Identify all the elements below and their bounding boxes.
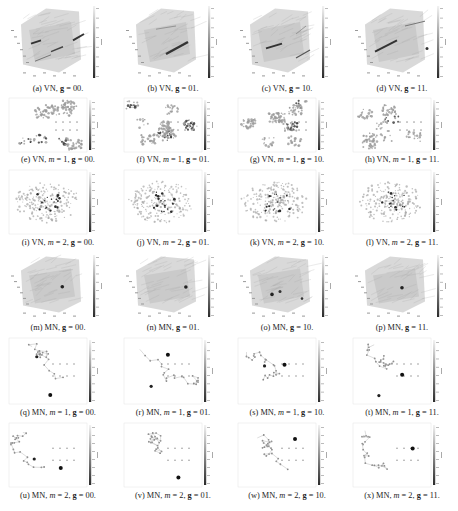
- caption-n: (n) MN, g = 01.: [116, 323, 230, 333]
- caption-label: (b) VN: [147, 84, 171, 93]
- caption-g-value: = 10.: [305, 238, 324, 247]
- caption-g-value: = 11.: [420, 155, 439, 164]
- plot-j: [116, 168, 230, 236]
- caption-v: (v) MN, m = 2, g = 01.: [116, 491, 230, 501]
- scatter-clusters-2d: [238, 98, 316, 152]
- caption-g-value: = 00.: [64, 84, 83, 93]
- caption-label: (r) MN: [136, 408, 160, 417]
- caption-m-value: = 1: [169, 155, 182, 164]
- graph-2d: [9, 423, 87, 487]
- plot-g: [230, 96, 344, 154]
- colorbar: [433, 172, 442, 232]
- caption-label: (s) MN: [250, 408, 274, 417]
- caption-f: (f) VN, m = 1, g = 01.: [116, 155, 230, 165]
- caption-g-value: = 11.: [409, 84, 428, 93]
- graph-2d: [353, 338, 431, 404]
- caption-m-value: = 2: [285, 491, 298, 500]
- caption-label: (h) VN: [365, 155, 389, 164]
- caption-g-value: = 10.: [305, 155, 324, 164]
- caption-g-value: = 01.: [180, 323, 199, 332]
- caption-m-value: = 1: [55, 408, 68, 417]
- caption-g-value: = 01.: [191, 408, 210, 417]
- plot-l: [345, 168, 458, 236]
- caption-g-value: = 10.: [305, 408, 324, 417]
- caption-a: (a) VN, g = 00.: [1, 84, 115, 94]
- caption-g-value: = 11.: [421, 491, 440, 500]
- caption-label: (j) VN: [137, 238, 159, 247]
- scatter-clusters-2d: [353, 98, 431, 152]
- caption-m-value: = 2: [54, 238, 67, 247]
- caption-label: (l) VN: [366, 238, 388, 247]
- caption-s: (s) MN, m = 1, g = 10.: [230, 408, 344, 418]
- caption-b: (b) VN, g = 01.: [116, 84, 230, 94]
- caption-p: (p) MN, g = 11.: [345, 323, 458, 333]
- scatter-cloud-3d: [355, 257, 436, 317]
- caption-g-value: = 00.: [76, 155, 95, 164]
- colorbar: [318, 340, 327, 402]
- caption-e: (e) VN, m = 1, g = 00.: [1, 155, 115, 165]
- caption-label: (t) MN: [365, 408, 388, 417]
- scatter-clusters-2d: [9, 98, 87, 152]
- caption-label: (c) VN: [262, 84, 285, 93]
- caption-m-value: = 1: [399, 155, 412, 164]
- plot-t: [345, 336, 458, 406]
- colorbar: [204, 172, 213, 232]
- scatter-cloud-3d: [126, 8, 208, 76]
- caption-g-value: = 10.: [294, 323, 313, 332]
- caption-i: (i) VN, m = 2, g = 00.: [1, 238, 115, 248]
- graph-2d: [124, 423, 202, 487]
- caption-o: (o) MN, g = 10.: [230, 323, 344, 333]
- colorbar: [204, 100, 213, 150]
- caption-m-value: = 1: [284, 408, 297, 417]
- caption-label: (x) MN: [364, 491, 389, 500]
- plot-e: [1, 96, 115, 154]
- caption-t: (t) MN, m = 1, g = 11.: [345, 408, 458, 418]
- colorbar: [89, 340, 98, 402]
- scatter-blob-2d: [238, 170, 316, 234]
- caption-h: (h) VN, m = 1, g = 11.: [345, 155, 458, 165]
- scatter-cloud-3d: [126, 257, 207, 317]
- graph-2d: [238, 338, 316, 404]
- caption-m-value: = 1: [284, 155, 297, 164]
- caption-l: (l) VN, m = 2, g = 11.: [345, 238, 458, 248]
- caption-g-value: = 10.: [293, 84, 312, 93]
- caption-k: (k) VN, m = 2, g = 10.: [230, 238, 344, 248]
- plot-q: [1, 336, 115, 406]
- plot-k: [230, 168, 344, 236]
- caption-g-value: = 00.: [66, 323, 85, 332]
- graph-2d: [124, 338, 202, 404]
- plot-h: [345, 96, 458, 154]
- scatter-cloud-3d: [11, 255, 83, 317]
- caption-x: (x) MN, m = 2, g = 11.: [345, 491, 458, 501]
- caption-g-value: = 00.: [77, 408, 96, 417]
- caption-label: (o) MN: [261, 323, 286, 332]
- scatter-blob-2d: [353, 170, 431, 234]
- caption-r: (r) MN, m = 1, g = 01.: [116, 408, 230, 418]
- caption-m-value: = 2: [169, 238, 182, 247]
- colorbar: [93, 6, 102, 78]
- plot-u: [1, 421, 115, 489]
- caption-label: (u) MN: [20, 491, 45, 500]
- caption-m-value: = 2: [398, 238, 411, 247]
- scatter-clusters-2d: [124, 98, 202, 152]
- plot-v: [116, 421, 230, 489]
- colorbar: [93, 255, 102, 317]
- colorbar: [318, 172, 327, 232]
- caption-g-value: = 11.: [420, 408, 439, 417]
- caption-w: (w) MN, m = 2, g = 10.: [230, 491, 344, 501]
- caption-g-value: = 01.: [190, 238, 209, 247]
- scatter-cloud-3d: [355, 8, 434, 76]
- caption-label: (w) MN: [248, 491, 275, 500]
- scatter-cloud-3d: [240, 8, 319, 76]
- caption-m-value: = 2: [284, 238, 297, 247]
- caption-g-value: = 01.: [190, 155, 209, 164]
- caption-m: (m) MN, g = 00.: [1, 323, 115, 333]
- colorbar: [437, 255, 446, 317]
- plot-d: [345, 2, 458, 82]
- caption-label: (n) MN: [147, 323, 172, 332]
- caption-q: (q) MN, m = 1, g = 00.: [1, 408, 115, 418]
- caption-g-value: = 11.: [409, 323, 428, 332]
- colorbar: [433, 340, 442, 402]
- colorbar: [204, 425, 213, 485]
- caption-g-value: = 00.: [77, 491, 96, 500]
